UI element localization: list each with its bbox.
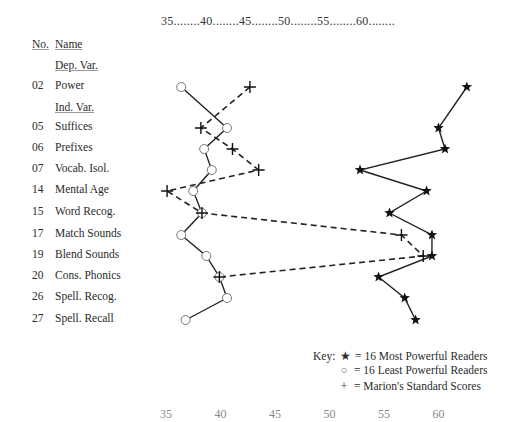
x-axis-bottom: 354045505560 [0, 407, 506, 422]
x-tick-label: 50 [324, 407, 336, 422]
equals-sign: = [354, 380, 361, 392]
star-icon [462, 82, 473, 92]
equals-sign: = [355, 350, 362, 362]
equals-sign: = [354, 364, 361, 376]
circle-icon [177, 83, 186, 92]
plus-icon [161, 185, 173, 197]
legend-plus: + = Marion's Standard Scores [337, 380, 481, 392]
circle-icon [202, 252, 211, 261]
plus-icon: + [337, 380, 351, 392]
star-icon [355, 165, 366, 175]
x-tick-label: 35 [160, 407, 172, 422]
star-series-line [360, 87, 467, 320]
circle-icon [177, 231, 186, 240]
star-icon [384, 208, 395, 218]
legend-circle-label: 16 Least Powerful Readers [363, 364, 487, 376]
plus-icon [395, 229, 407, 241]
plus-icon [195, 122, 207, 134]
legend-plus-label: Marion's Standard Scores [363, 380, 481, 392]
star-icon [433, 123, 443, 133]
x-tick-label: 60 [433, 407, 445, 422]
x-tick-label: 55 [378, 407, 390, 422]
circle-icon [200, 145, 209, 154]
circle-icon [223, 124, 232, 133]
circle-icon: ○ [337, 364, 351, 376]
plus-icon [253, 164, 265, 176]
circle-icon [181, 316, 190, 325]
circle-icon [223, 294, 232, 303]
x-tick-label: 45 [269, 407, 281, 422]
legend-star-label: 16 Most Powerful Readers [364, 350, 487, 362]
plus-icon [226, 143, 238, 155]
x-tick-label: 40 [215, 407, 227, 422]
star-icon: ★ [338, 349, 352, 363]
legend-star: Key: ★ = 16 Most Powerful Readers [313, 349, 487, 363]
star-icon [400, 293, 410, 303]
key-prefix: Key: [313, 350, 335, 362]
plus-icon [213, 271, 225, 283]
star-icon [440, 144, 451, 154]
circle-icon [189, 187, 198, 196]
plus-series-line [167, 87, 423, 277]
star-icon [410, 315, 420, 325]
legend-circle: ○ = 16 Least Powerful Readers [337, 364, 487, 376]
circle-icon [207, 166, 216, 175]
